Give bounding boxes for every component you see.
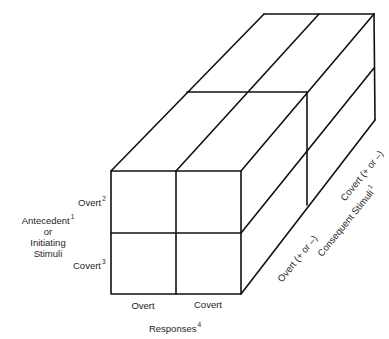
antecedent-text: Antecedent: [22, 215, 70, 226]
column-label-overt-text: Overt: [131, 300, 154, 311]
antecedent-line2: or: [8, 226, 88, 237]
row-label-overt: Overt2: [78, 193, 106, 208]
antecedent-line3: Initiating: [8, 237, 88, 248]
responses-text: Responses: [149, 323, 197, 334]
top-face: [111, 14, 374, 171]
column-label-covert: Covert: [183, 299, 233, 310]
cube-diagram: [0, 0, 389, 339]
footnote-marker: 1: [71, 213, 75, 220]
front-face: [111, 171, 241, 294]
column-label-covert-text: Covert: [194, 299, 222, 310]
footnote-marker: 3: [102, 258, 106, 265]
row-label-covert-text: Covert: [73, 260, 101, 271]
antecedent-stimuli-label: Antecedent1 or Initiating Stimuli: [8, 211, 88, 259]
column-label-overt: Overt: [118, 300, 168, 311]
responses-axis-label: Responses4: [135, 319, 215, 334]
right-face-back-edge: [374, 14, 375, 120]
antecedent-line4: Stimuli: [8, 248, 88, 259]
row-label-overt-text: Overt: [78, 197, 101, 208]
footnote-marker: 4: [197, 321, 201, 328]
footnote-marker: 2: [102, 195, 106, 202]
antecedent-line1: Antecedent1: [8, 211, 88, 226]
